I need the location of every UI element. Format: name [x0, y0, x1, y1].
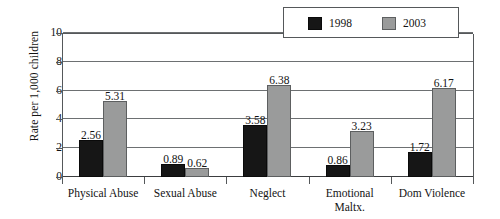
bar-group: 0.863.23	[310, 34, 392, 177]
category-label-5: Dom Violence	[377, 186, 487, 200]
bar-group: 3.586.38	[227, 34, 309, 177]
x-tick-mark-5	[473, 177, 474, 184]
bar-1998-5: 1.72	[408, 152, 432, 177]
bar-value-label: 6.38	[269, 74, 289, 86]
bar-group: 0.890.62	[145, 34, 227, 177]
bar-value-label: 0.89	[163, 153, 183, 165]
bar-2003-4: 3.23	[350, 131, 374, 178]
bar-2003-3: 6.38	[267, 85, 291, 177]
x-tick-mark-2	[226, 177, 227, 184]
x-tick-mark-0	[62, 177, 63, 184]
bar-1998-4: 0.86	[326, 165, 350, 177]
x-tick-mark-4	[391, 177, 392, 184]
bar-chart: Rate per 1,000 children 0246810 2.565.31…	[0, 0, 500, 219]
bar-value-label: 1.72	[410, 141, 430, 153]
legend: 1998 2003	[283, 7, 459, 38]
legend-item-1998: 1998	[308, 15, 352, 31]
bar-value-label: 0.62	[187, 157, 207, 169]
bar-1998-3: 3.58	[243, 125, 267, 177]
category-label-line: Dom Violence	[399, 187, 465, 199]
category-label-line: Physical Abuse	[68, 187, 139, 199]
plot-area: 2.565.310.890.623.586.380.863.231.726.17	[62, 33, 473, 177]
category-label-line: Maltx.	[295, 200, 405, 214]
bar-2003-2: 0.62	[185, 168, 209, 177]
bar-value-label: 3.23	[352, 120, 372, 132]
category-label-line: Sexual Abuse	[154, 187, 217, 199]
legend-swatch-1998-icon	[308, 17, 322, 30]
legend-swatch-2003-icon	[382, 17, 396, 30]
category-label-line: Emotional	[326, 187, 374, 199]
bar-value-label: 2.56	[81, 129, 101, 141]
bar-2003-1: 5.31	[103, 101, 127, 177]
bar-value-label: 3.58	[245, 114, 265, 126]
bar-value-label: 5.31	[105, 90, 125, 102]
bar-group: 1.726.17	[392, 34, 474, 177]
legend-item-2003: 2003	[382, 15, 426, 31]
legend-label-1998: 1998	[329, 17, 352, 29]
bar-value-label: 0.86	[328, 154, 348, 166]
x-axis-ticks	[62, 177, 473, 185]
x-tick-mark-1	[144, 177, 145, 184]
bar-value-label: 6.17	[434, 77, 454, 89]
bar-1998-1: 2.56	[79, 140, 103, 177]
bar-1998-2: 0.89	[161, 164, 185, 177]
bar-group: 2.565.31	[63, 34, 145, 177]
x-tick-mark-3	[309, 177, 310, 184]
legend-label-2003: 2003	[403, 17, 426, 29]
bar-2003-5: 6.17	[432, 88, 456, 177]
category-label-line: Neglect	[250, 187, 286, 199]
